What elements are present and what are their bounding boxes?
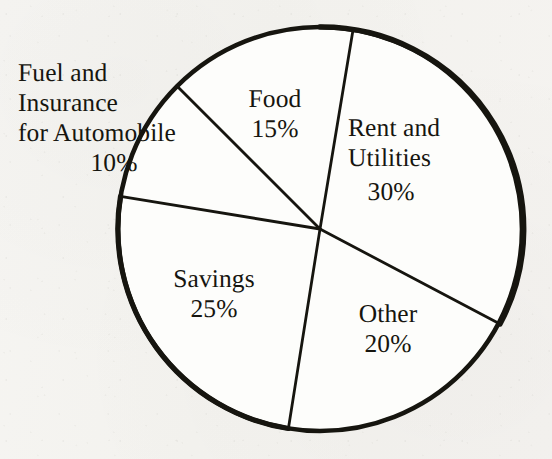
slice-label-rent-line2: Utilities bbox=[348, 143, 440, 173]
slice-value-rent: 30% bbox=[348, 177, 440, 207]
slice-value-other: 20% bbox=[336, 329, 440, 359]
slice-label-fuel: Fuel and Insurance for Automobile 10% bbox=[18, 58, 176, 178]
slice-value-food: 15% bbox=[219, 114, 331, 144]
slice-label-rent-line1: Rent and bbox=[348, 113, 440, 143]
slice-value-fuel: 10% bbox=[18, 148, 176, 178]
slice-label-rent: Rent and Utilities 30% bbox=[348, 113, 440, 206]
slice-label-other: Other 20% bbox=[336, 299, 440, 359]
slice-label-fuel-line1: Fuel and bbox=[18, 58, 176, 88]
slice-label-savings-name: Savings bbox=[148, 264, 280, 294]
slice-value-savings: 25% bbox=[148, 294, 280, 324]
slice-label-fuel-line3: for Automobile bbox=[18, 118, 176, 148]
slice-label-food: Food 15% bbox=[219, 84, 331, 144]
pie-chart-figure: Fuel and Insurance for Automobile 10% Fo… bbox=[0, 0, 552, 459]
slice-label-food-name: Food bbox=[219, 84, 331, 114]
slice-label-fuel-line2: Insurance bbox=[18, 88, 176, 118]
slice-label-other-name: Other bbox=[336, 299, 440, 329]
slice-label-savings: Savings 25% bbox=[148, 264, 280, 324]
